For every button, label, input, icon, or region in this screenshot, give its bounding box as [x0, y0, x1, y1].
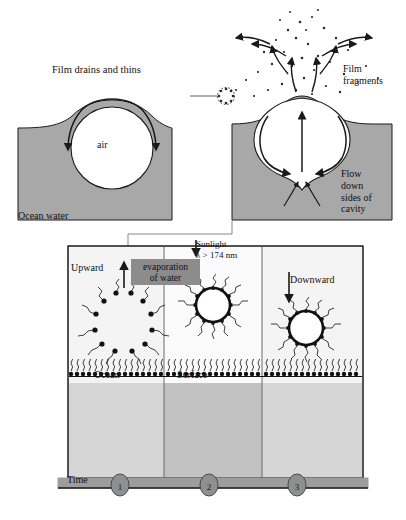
ocean-label: Ocean — [94, 370, 120, 381]
evaporation-of-water-label: evaporation of water — [134, 262, 197, 284]
ejected-micelle-marker — [218, 88, 235, 105]
diagram-canvas: Film drains and thins air Ocean water Fi… — [0, 0, 406, 520]
step-marker-3: 3 — [290, 482, 304, 492]
film-fragments-label: Film fragments — [343, 63, 383, 87]
sunlight-title: Sunlight — [196, 239, 227, 249]
air-label: air — [97, 140, 108, 151]
step-marker-1: 1 — [113, 482, 127, 492]
sunlight-label: Sunlightλ > 174 nm — [196, 239, 237, 261]
film-drains-caption: Film drains and thins — [52, 64, 141, 75]
flow-down-sides-of-cavity-label: Flow down sides of cavity — [341, 168, 372, 215]
downward-direction-label: Downward — [290, 275, 334, 286]
surface-label: Surface — [177, 370, 208, 381]
ocean-water-label: Ocean water — [18, 211, 68, 222]
step-marker-2: 2 — [202, 482, 216, 492]
sunlight-wavelength: λ > 174 nm — [196, 250, 237, 260]
time-axis-label: Time — [67, 475, 88, 486]
upward-direction-label: Upward — [71, 263, 103, 274]
